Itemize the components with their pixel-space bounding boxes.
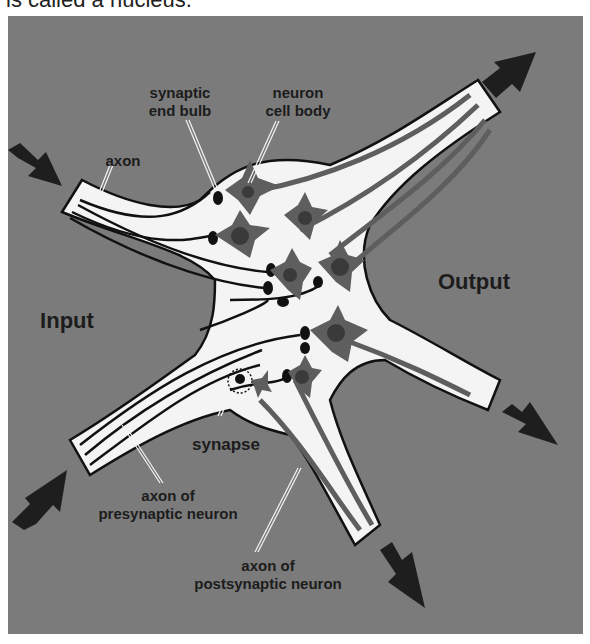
label-axon-presynaptic-line1: axon of bbox=[78, 487, 258, 505]
label-input-text: Input bbox=[40, 308, 94, 333]
input-arrow-top-left bbox=[8, 143, 62, 186]
nucleus-diagram: synaptic end bulb neuron cell body axon … bbox=[8, 16, 583, 634]
output-arrow-right bbox=[502, 402, 558, 445]
label-synaptic-end-bulb-line1: synaptic bbox=[130, 84, 230, 102]
caption-text: is called a nucleus. bbox=[6, 0, 192, 13]
input-arrow-bottom-left bbox=[12, 470, 67, 530]
label-axon-presynaptic-line2: presynaptic neuron bbox=[78, 505, 258, 523]
label-axon-postsynaptic-line2: postsynaptic neuron bbox=[168, 575, 368, 593]
label-output: Output bbox=[429, 270, 519, 294]
label-neuron-cell-body-line1: neuron bbox=[248, 84, 348, 102]
label-axon-text: axon bbox=[105, 152, 140, 169]
nucleus-tract-shape bbox=[62, 80, 500, 545]
label-axon-postsynaptic-line1: axon of bbox=[168, 557, 368, 575]
label-neuron-cell-body: neuron cell body bbox=[248, 84, 348, 120]
label-output-text: Output bbox=[438, 269, 510, 294]
label-input: Input bbox=[32, 309, 102, 333]
label-neuron-cell-body-line2: cell body bbox=[248, 102, 348, 120]
label-synaptic-end-bulb-line2: end bulb bbox=[130, 102, 230, 120]
label-synapse: synapse bbox=[186, 436, 266, 454]
label-axon-postsynaptic: axon of postsynaptic neuron bbox=[168, 557, 368, 593]
label-axon-presynaptic: axon of presynaptic neuron bbox=[78, 487, 258, 523]
label-synapse-text: synapse bbox=[192, 435, 260, 454]
output-arrow-top-right bbox=[482, 52, 536, 98]
label-axon: axon bbox=[93, 152, 153, 170]
output-arrow-bottom bbox=[380, 542, 425, 608]
label-synaptic-end-bulb: synaptic end bulb bbox=[130, 84, 230, 120]
